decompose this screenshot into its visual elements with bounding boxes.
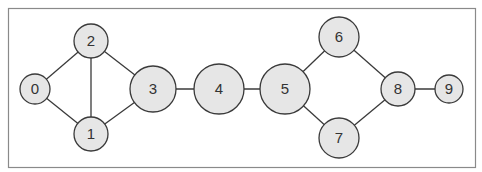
node-label: 6 [335, 28, 343, 45]
graph-diagram: 0123456789 [0, 0, 482, 172]
node-label: 7 [335, 129, 343, 146]
node-label: 1 [87, 125, 95, 142]
node-5: 5 [260, 64, 310, 114]
node-label: 5 [281, 80, 289, 97]
node-4: 4 [194, 64, 244, 114]
node-0: 0 [20, 74, 50, 104]
node-label: 3 [149, 80, 157, 97]
node-2: 2 [74, 24, 108, 58]
node-3: 3 [130, 66, 176, 112]
node-label: 8 [394, 80, 402, 97]
node-label: 0 [31, 80, 39, 97]
node-label: 2 [87, 32, 95, 49]
node-label: 4 [215, 80, 223, 97]
node-7: 7 [319, 118, 359, 158]
node-1: 1 [74, 117, 108, 151]
node-6: 6 [319, 17, 359, 57]
node-9: 9 [435, 75, 463, 103]
node-8: 8 [381, 72, 415, 106]
node-label: 9 [445, 80, 453, 97]
